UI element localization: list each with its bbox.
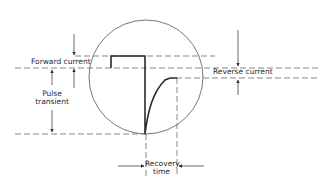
pulse-transient-label: Pulse transient — [32, 90, 72, 106]
reverse-current-label: Reverse current — [213, 68, 273, 76]
diagram-canvas: Forward current Reverse current Pulse tr… — [0, 0, 327, 190]
recovery-time-line2: time — [145, 168, 178, 176]
recovery-time-label: Recovery time — [145, 160, 178, 176]
magnifier-circle — [89, 20, 203, 134]
forward-current-label: Forward current — [31, 58, 91, 66]
pulse-transient-line2: transient — [32, 98, 72, 106]
